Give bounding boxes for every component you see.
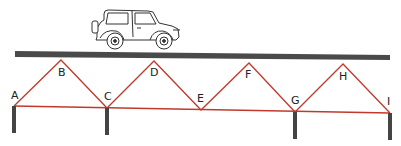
joint-label-h: H [339, 70, 347, 83]
joint-label-d: D [150, 66, 158, 79]
joint-label-e: E [197, 92, 204, 105]
joint-label-g: G [291, 94, 300, 107]
support-post-c [105, 108, 109, 135]
joint-label-i: I [387, 95, 390, 108]
joint-label-f: F [245, 68, 251, 81]
bridge-deck [15, 51, 390, 60]
support-post-g [293, 112, 297, 139]
truss-bridge-diagram: A B C D E F G H I [0, 0, 401, 146]
joint-label-b: B [58, 66, 66, 79]
truss-members [14, 60, 390, 113]
jeep-icon [92, 10, 180, 49]
support-post-a [12, 106, 16, 133]
support-posts [12, 106, 392, 140]
support-post-i [388, 113, 392, 140]
joint-label-a: A [11, 89, 19, 102]
joint-label-c: C [104, 90, 112, 103]
